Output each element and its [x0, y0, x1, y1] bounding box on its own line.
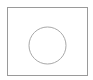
outer-rectangle	[8, 8, 88, 76]
diagram-canvas	[0, 0, 93, 80]
